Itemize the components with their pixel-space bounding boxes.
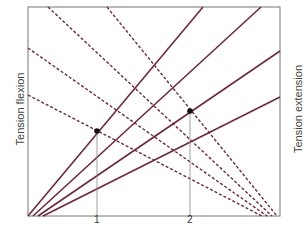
point-2 — [187, 108, 193, 114]
y-axis-label-right: Tension extension — [292, 59, 304, 159]
point-1 — [94, 128, 100, 134]
y-axis-label-left: Tension flexion — [14, 64, 26, 154]
x-tick-1: 1 — [94, 214, 100, 225]
solid-lines — [28, 7, 280, 216]
chart-canvas — [0, 0, 307, 234]
solid-line-extension-1 — [28, 7, 203, 216]
plot-frame — [28, 7, 280, 216]
dashed-line-flexion-3 — [48, 7, 272, 216]
solid-line-extension-2 — [33, 7, 261, 216]
solid-line-extension-3 — [38, 51, 280, 216]
x-tick-2: 2 — [187, 214, 193, 225]
dashed-lines — [28, 7, 277, 216]
